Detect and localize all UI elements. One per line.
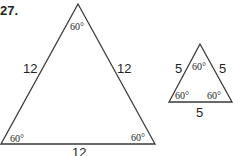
large-side-bottom: 12	[72, 145, 86, 156]
small-angle-top: 60°	[192, 61, 206, 72]
large-side-left: 12	[23, 61, 37, 76]
small-side-left: 5	[175, 61, 182, 76]
problem-number: 27.	[0, 3, 18, 18]
large-angle-top: 60°	[70, 21, 84, 32]
small-side-right: 5	[219, 61, 226, 76]
small-angle-bottom-right: 60°	[207, 90, 221, 101]
small-angle-bottom-left: 60°	[175, 90, 189, 101]
figure: 27. 60° 60° 60° 12 12 12 60° 60° 60° 5 5…	[0, 0, 233, 156]
small-side-bottom: 5	[196, 105, 203, 120]
large-side-right: 12	[117, 61, 131, 76]
large-angle-bottom-right: 60°	[131, 132, 145, 143]
large-angle-bottom-left: 60°	[10, 133, 24, 144]
